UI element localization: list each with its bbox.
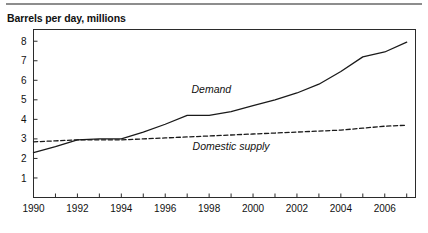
x-tick-label: 1990 [22,203,45,214]
line-chart-plot: 12345678 1990199219941996199820002002200… [0,0,428,233]
chart-figure: Barrels per day, millions 12345678 19901… [0,0,428,233]
y-tick-label: 8 [21,36,27,47]
x-tick-label: 2006 [374,203,397,214]
x-tick-label: 2000 [242,203,265,214]
y-axis: 12345678 [21,36,38,184]
y-tick-label: 3 [21,133,27,144]
x-tick-label: 1998 [198,203,221,214]
y-tick-label: 2 [21,153,27,164]
series-annotations: DemandDomestic supply [191,83,270,152]
x-tick-label: 2002 [286,203,309,214]
y-tick-label: 7 [21,55,27,66]
series-label-demand: Demand [191,83,232,95]
x-axis: 199019921994199619982000200220042006 [22,194,406,214]
y-tick-label: 1 [21,173,27,184]
y-tick-label: 4 [21,114,27,125]
x-tick-label: 1994 [110,203,133,214]
x-tick-label: 1992 [66,203,89,214]
y-tick-label: 6 [21,75,27,86]
series-lines [34,42,407,152]
plot-frame [34,30,416,198]
series-label-domestic-supply: Domestic supply [193,140,271,152]
x-tick-label: 1996 [154,203,177,214]
y-tick-label: 5 [21,94,27,105]
x-tick-label: 2004 [330,203,353,214]
